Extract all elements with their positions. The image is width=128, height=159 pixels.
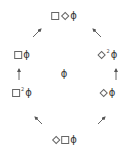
arrow-up-right-icon — [33, 29, 41, 37]
arrow-up-left-icon — [35, 117, 42, 124]
arrow-up-left-icon — [93, 29, 101, 37]
arrow-up-right-icon — [98, 117, 105, 124]
arrows-layer — [0, 0, 128, 159]
